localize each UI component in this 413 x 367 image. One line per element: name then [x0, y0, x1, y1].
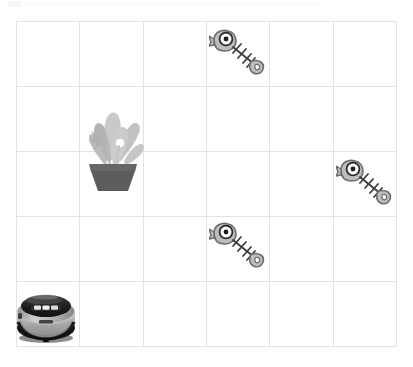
grid-cell[interactable] — [207, 152, 270, 217]
grid-cell[interactable] — [144, 217, 207, 282]
grid-cell[interactable] — [270, 22, 333, 87]
grid-cell[interactable] — [334, 217, 397, 282]
floor-grid — [16, 21, 397, 347]
grid-cell[interactable] — [207, 282, 270, 347]
grid-cell[interactable] — [17, 22, 80, 87]
grid-cell[interactable] — [334, 22, 397, 87]
grid-cell[interactable] — [207, 22, 270, 87]
grid-cell[interactable] — [80, 22, 143, 87]
grid-cell[interactable] — [270, 282, 333, 347]
grid-cell[interactable] — [270, 217, 333, 282]
grid-cell[interactable] — [17, 87, 80, 152]
cleaning-scene — [0, 0, 413, 367]
grid-cell[interactable] — [80, 217, 143, 282]
grid-cell[interactable] — [207, 217, 270, 282]
grid-cell[interactable] — [17, 217, 80, 282]
grid-cell[interactable] — [334, 152, 397, 217]
grid-cell[interactable] — [270, 87, 333, 152]
grid-cell[interactable] — [144, 87, 207, 152]
grid-cell[interactable] — [144, 22, 207, 87]
grid-cell[interactable] — [80, 282, 143, 347]
grid-cell[interactable] — [144, 152, 207, 217]
grid-cell[interactable] — [17, 282, 80, 347]
top-left-artifact — [8, 1, 22, 7]
grid-cell[interactable] — [80, 152, 143, 217]
grid-cell[interactable] — [144, 282, 207, 347]
top-edge-artifact-bar — [24, 3, 324, 5]
grid-cell[interactable] — [207, 87, 270, 152]
grid-cell[interactable] — [334, 87, 397, 152]
grid-cell[interactable] — [80, 87, 143, 152]
grid-cell[interactable] — [270, 152, 333, 217]
grid-cell[interactable] — [17, 152, 80, 217]
grid-cell[interactable] — [334, 282, 397, 347]
